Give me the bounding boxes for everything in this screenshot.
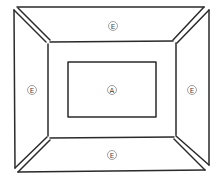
label-left: E	[28, 86, 37, 95]
label-center-text: A	[110, 87, 115, 95]
diagram-canvas: E E A E E	[0, 0, 224, 186]
label-left-text: E	[30, 87, 34, 95]
inner-bottom-edge	[50, 137, 174, 138]
label-top: E	[109, 22, 118, 31]
corner-top-left	[14, 8, 50, 42]
inner-top-edge	[50, 41, 173, 42]
label-right: E	[188, 86, 197, 95]
label-center: A	[108, 86, 117, 95]
corner-bottom-left	[15, 137, 50, 172]
label-bottom: E	[108, 151, 117, 160]
label-bottom-text: E	[110, 152, 114, 160]
label-right-text: E	[190, 87, 194, 95]
corner-bottom-right	[174, 136, 209, 170]
corner-top-right	[173, 7, 209, 43]
label-top-text: E	[111, 23, 115, 31]
outer-bottom-edge	[18, 170, 205, 172]
outer-left-edge	[14, 10, 15, 168]
